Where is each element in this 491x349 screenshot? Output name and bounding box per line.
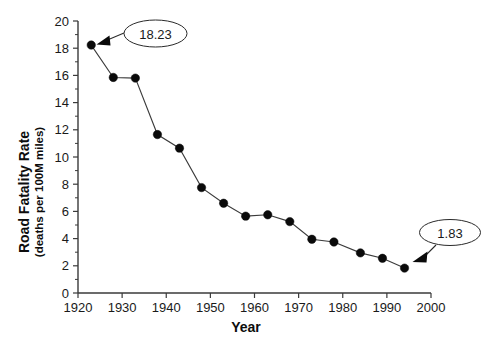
y-tick-label: 6	[62, 204, 69, 219]
fatality-rate-line-chart: 02468101214161820 1920193019401950196019…	[0, 0, 491, 349]
y-tick-label: 2	[62, 258, 69, 273]
data-point	[87, 41, 95, 49]
y-tick-label: 12	[55, 122, 69, 137]
data-point	[175, 144, 183, 152]
callout-label-high: 18.23	[139, 27, 172, 42]
chart-container: 02468101214161820 1920193019401950196019…	[0, 0, 491, 349]
data-point	[241, 212, 249, 220]
annotation-callout-low: 1.83	[413, 220, 481, 263]
annotation-callout-high: 18.23	[97, 20, 188, 47]
data-point	[131, 74, 139, 82]
data-point	[197, 183, 205, 191]
y-tick-label: 16	[55, 68, 69, 83]
data-point	[286, 217, 294, 225]
y-tick-label: 20	[55, 14, 69, 29]
y-axis-title: Road Fatality Rate	[16, 131, 32, 253]
x-axis-title: Year	[231, 319, 261, 335]
y-axis-subtitle: (deaths per 100M miles)	[33, 127, 45, 258]
x-axis-ticks	[78, 293, 431, 298]
y-tick-label: 18	[55, 41, 69, 56]
data-point	[109, 73, 117, 81]
arrow-head-high	[97, 36, 111, 46]
arrow-head-low	[413, 252, 428, 263]
callout-label-low: 1.83	[437, 226, 462, 241]
data-point	[308, 235, 316, 243]
data-point	[356, 249, 364, 257]
y-tick-label: 10	[55, 150, 69, 165]
x-tick-label: 1950	[196, 300, 225, 315]
data-point	[219, 199, 227, 207]
x-tick-label: 1940	[152, 300, 181, 315]
x-tick-label: 1960	[240, 300, 269, 315]
data-point	[264, 211, 272, 219]
x-tick-label: 1920	[64, 300, 93, 315]
data-point	[153, 130, 161, 138]
data-point	[330, 238, 338, 246]
data-point	[400, 264, 408, 272]
x-tick-label: 2000	[417, 300, 446, 315]
x-axis-tick-labels: 192019301940195019601970198019902000	[64, 300, 446, 315]
axis-group	[78, 21, 431, 293]
data-point	[378, 254, 386, 262]
y-axis-tick-labels: 02468101214161820	[55, 14, 69, 301]
y-tick-label: 8	[62, 177, 69, 192]
y-tick-label: 0	[62, 286, 69, 301]
x-tick-label: 1930	[108, 300, 137, 315]
x-tick-label: 1980	[328, 300, 357, 315]
x-tick-label: 1970	[284, 300, 313, 315]
y-tick-label: 14	[55, 95, 69, 110]
fatality-rate-markers	[87, 41, 409, 272]
x-tick-label: 1990	[372, 300, 401, 315]
y-tick-label: 4	[62, 231, 69, 246]
